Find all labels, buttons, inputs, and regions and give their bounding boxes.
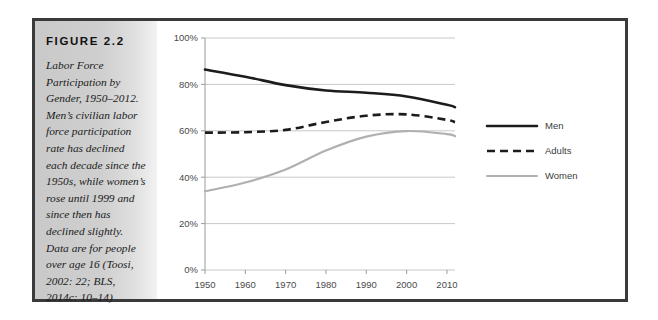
x-tick-label: 2010	[436, 279, 457, 290]
caption-panel: FIGURE 2.2 Labor Force Participation by …	[35, 21, 157, 299]
gridlines	[201, 38, 455, 270]
figure-label: FIGURE 2.2	[46, 35, 148, 47]
figure-caption: Labor Force Participation by Gender, 195…	[46, 57, 148, 306]
series-line-women	[205, 131, 455, 191]
figure-frame: FIGURE 2.2 Labor Force Participation by …	[32, 18, 628, 302]
y-tick-label: 60%	[179, 125, 199, 136]
chart-panel: 0%20%40%60%80%100% 195019601970198019902…	[157, 21, 625, 299]
x-axis-tick-labels: 1950196019701980199020002010	[194, 279, 457, 290]
y-axis-tick-labels: 0%20%40%60%80%100%	[174, 32, 199, 275]
legend-label-men: Men	[545, 120, 563, 131]
x-tick-label: 1960	[235, 279, 256, 290]
y-tick-label: 0%	[184, 264, 198, 275]
x-tick-label: 1980	[315, 279, 336, 290]
y-tick-label: 80%	[179, 79, 199, 90]
y-tick-label: 20%	[179, 218, 199, 229]
series-line-adults	[205, 114, 455, 133]
series-line-men	[205, 70, 455, 108]
legend-label-women: Women	[545, 170, 578, 181]
x-tick-label: 1990	[356, 279, 377, 290]
y-tick-label: 40%	[179, 172, 199, 183]
x-tick-label: 1950	[194, 279, 215, 290]
y-tick-label: 100%	[174, 32, 199, 43]
line-chart: 0%20%40%60%80%100% 195019601970198019902…	[157, 21, 625, 299]
x-tick-label: 1970	[275, 279, 296, 290]
legend-label-adults: Adults	[545, 145, 572, 156]
x-axis-tick-marks	[205, 270, 447, 274]
chart-legend: MenAdultsWomen	[487, 120, 578, 181]
x-tick-label: 2000	[396, 279, 417, 290]
